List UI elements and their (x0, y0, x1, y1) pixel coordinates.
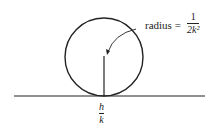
arrowhead-icon (106, 49, 110, 55)
tangent-point-label: h k (99, 102, 104, 125)
radius-fraction: 1 2k² (187, 12, 199, 35)
radius-label-text: radius = (145, 20, 181, 31)
pointer-arrow (108, 29, 136, 52)
radius-numerator: 1 (191, 12, 196, 22)
tangent-denominator: k (99, 115, 103, 125)
radius-denominator: 2k² (187, 25, 199, 35)
tangent-numerator: h (99, 102, 104, 112)
